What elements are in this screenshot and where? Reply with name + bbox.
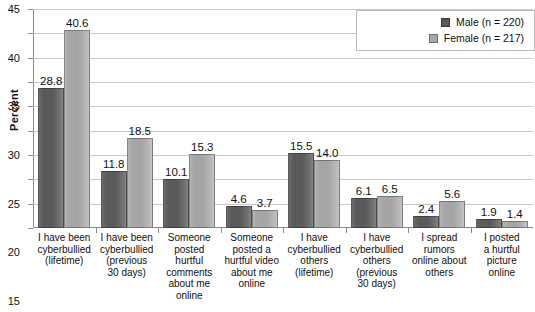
bar-female: 40.6 <box>64 30 90 228</box>
y-tick-label: 15 <box>8 295 20 307</box>
y-tick-label: 20 <box>8 246 20 258</box>
bar-value-label: 40.6 <box>66 17 88 29</box>
x-axis-label-line: online <box>488 267 515 278</box>
bar-female: 3.7 <box>252 210 278 228</box>
bar-female: 14.0 <box>314 160 340 228</box>
bar-value-label: 4.6 <box>231 193 247 205</box>
gridline <box>33 131 533 132</box>
bar-male: 4.6 <box>226 206 252 228</box>
bar-value-label: 1.9 <box>481 206 497 218</box>
x-axis-label-line: I have <box>301 232 328 243</box>
x-axis-label-line: I have been <box>38 232 90 243</box>
x-axis-label-line: posted <box>174 244 204 255</box>
bar-male: 2.4 <box>413 216 439 228</box>
x-axis-label: Someoneposted ahurtful videoabout meonli… <box>221 232 284 290</box>
y-tick-label: 30 <box>8 149 20 161</box>
x-axis-label-line: 30 days) <box>108 267 146 278</box>
legend: Male (n = 220) Female (n = 217) <box>356 10 535 51</box>
bar-female: 5.6 <box>439 201 465 228</box>
bar-male: 28.8 <box>38 88 64 228</box>
x-axis-label-line: hurtful <box>175 255 203 266</box>
x-axis-label-line: about me <box>168 278 210 289</box>
x-axis-label-line: cyberbullied <box>38 244 91 255</box>
bar-female: 18.5 <box>127 138 153 228</box>
x-axis-label-line: a hurtful <box>484 244 520 255</box>
x-axis-label-line: others <box>363 255 391 266</box>
x-axis-label-line: cyberbullied <box>350 244 403 255</box>
x-axis-label-line: I have <box>363 232 390 243</box>
gridline <box>33 82 533 83</box>
x-axis-label-line: 30 days) <box>358 278 396 289</box>
y-tick-label: 25 <box>8 198 20 210</box>
bar-value-label: 3.7 <box>257 197 273 209</box>
bar-value-label: 28.8 <box>40 75 62 87</box>
legend-swatch-female-icon <box>429 34 438 43</box>
bar-female: 6.5 <box>377 196 403 228</box>
x-axis-label-line: others <box>300 255 328 266</box>
y-tick-mark: 25 <box>28 106 33 107</box>
y-tick-mark: 15 <box>28 155 33 156</box>
gridline <box>33 106 533 107</box>
x-axis-label: I posteda hurtfulpictureonline <box>471 232 534 278</box>
y-tick-mark: 5 <box>28 204 33 205</box>
y-tick-mark: 10 <box>28 179 33 180</box>
y-tick-mark: 35 <box>28 58 33 59</box>
bar-male: 10.1 <box>163 179 189 228</box>
bar-value-label: 15.5 <box>290 140 312 152</box>
bar-value-label: 18.5 <box>129 125 151 137</box>
x-axis-label-line: about me <box>231 267 273 278</box>
y-tick-label: 45 <box>8 3 20 15</box>
bar-value-label: 14.0 <box>316 147 338 159</box>
x-axis-label-line: cyberbullied <box>100 244 153 255</box>
legend-label-male: Male (n = 220) <box>456 16 524 28</box>
bar-value-label: 15.3 <box>191 141 213 153</box>
x-axis-label-line: I have been <box>101 232 153 243</box>
bar-female: 15.3 <box>189 154 215 228</box>
y-tick-mark: 0 <box>28 228 33 229</box>
x-axis-label-line: Someone <box>230 232 273 243</box>
y-tick-mark: 30 <box>28 82 33 83</box>
x-axis-label-line: online about <box>412 255 467 266</box>
x-axis-label: Someonepostedhurtfulcommentsabout meonli… <box>158 232 221 301</box>
x-axis-label-line: (lifetime) <box>45 255 83 266</box>
bar-male: 11.8 <box>101 171 127 228</box>
x-axis-label: I have beencyberbullied(lifetime) <box>33 232 96 267</box>
x-axis-label-line: I spread <box>421 232 457 243</box>
legend-item-female: Female (n = 217) <box>357 30 524 46</box>
x-axis-label-line: comments <box>166 267 212 278</box>
y-tick-label: 40 <box>8 52 20 64</box>
legend-label-female: Female (n = 217) <box>444 32 524 44</box>
x-axis-label-line: others <box>425 267 453 278</box>
bar-value-label: 6.5 <box>382 183 398 195</box>
y-tick-mark: 40 <box>28 33 33 34</box>
bar-chart: Percent 051015202530354045 28.840.611.81… <box>0 0 535 312</box>
x-axis-label-line: posted a <box>233 244 271 255</box>
legend-item-male: Male (n = 220) <box>357 14 524 30</box>
bar-value-label: 10.1 <box>165 166 187 178</box>
bar-value-label: 6.1 <box>356 185 372 197</box>
y-tick-mark: 20 <box>28 131 33 132</box>
bar-female: 1.4 <box>502 221 528 228</box>
x-axis-label-line: (previous <box>106 255 147 266</box>
bar-male: 6.1 <box>351 198 377 228</box>
gridline <box>33 58 533 59</box>
x-axis-label-line: rumors <box>424 244 455 255</box>
x-axis-label: I spreadrumorsonline aboutothers <box>408 232 471 278</box>
bar-value-label: 1.4 <box>507 208 523 220</box>
x-axis-label-line: Someone <box>168 232 211 243</box>
bar-value-label: 11.8 <box>103 158 125 170</box>
x-axis-label-line: online <box>176 290 203 301</box>
x-axis-label-line: (lifetime) <box>295 267 333 278</box>
bar-value-label: 2.4 <box>418 203 434 215</box>
x-axis-label: I have beencyberbullied(previous30 days) <box>96 232 159 278</box>
legend-swatch-male-icon <box>441 18 450 27</box>
x-axis-label: I havecyberbulliedothers(lifetime) <box>283 232 346 278</box>
x-axis-label-line: cyberbullied <box>288 244 341 255</box>
y-tick-label: 35 <box>8 100 20 112</box>
x-axis-label-line: picture <box>487 255 517 266</box>
gridline <box>33 155 533 156</box>
y-tick-mark: 45 <box>28 9 33 10</box>
x-axis-label: I havecyberbulliedothers(previous30 days… <box>346 232 409 290</box>
x-axis-label-line: (previous <box>356 267 397 278</box>
x-axis-label-line: hurtful video <box>225 255 279 266</box>
